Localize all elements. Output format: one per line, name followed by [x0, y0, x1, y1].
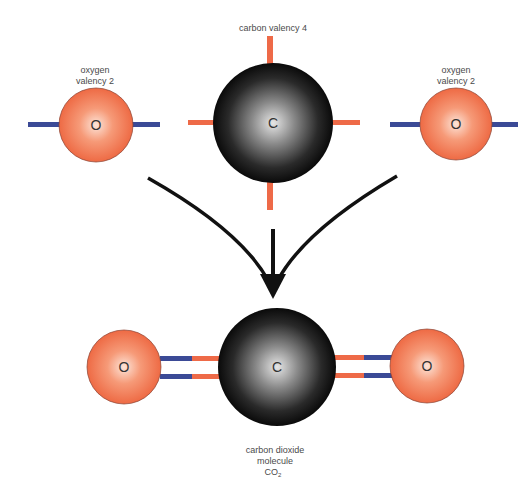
caption-line2: molecule	[257, 456, 293, 466]
caption-formula: CO2	[265, 467, 283, 478]
atom-symbol: O	[91, 117, 102, 133]
double-bond-left-bottom-carbon	[192, 374, 222, 379]
double-bond-left-top-carbon	[192, 356, 222, 361]
co2-molecule: O C O carbon dioxide molecule CO2	[87, 308, 464, 478]
bond-stub-top	[267, 36, 273, 66]
bond-stub-left	[390, 122, 420, 127]
double-bond-left-top-oxygen	[160, 356, 192, 361]
atom-symbol: O	[451, 116, 462, 132]
arrow-head-icon	[260, 274, 286, 299]
atom-symbol: C	[268, 115, 278, 131]
top-carbon: C carbon valency 4	[188, 23, 360, 210]
atom-label-line1: oxygen	[441, 65, 470, 75]
bond-stub-bottom	[267, 180, 273, 210]
atom-label-line2: valency 2	[437, 76, 475, 86]
double-bond-left-bottom-oxygen	[160, 374, 192, 379]
double-bond-right-bottom-carbon	[334, 373, 364, 378]
top-oxygen-left: O oxygen valency 2	[28, 65, 160, 162]
atom-label: carbon valency 4	[239, 23, 307, 33]
atom-symbol: O	[119, 359, 130, 375]
atom-label-line1: oxygen	[80, 65, 109, 75]
bond-stub-right	[490, 122, 518, 127]
co2-formation-diagram: O oxygen valency 2 C carbon valency 4 O …	[0, 0, 523, 502]
atom-symbol: C	[272, 359, 282, 375]
double-bond-right-top-carbon	[334, 355, 364, 360]
center-arrow-shaft	[271, 229, 275, 279]
bond-stub-right	[330, 120, 360, 125]
top-oxygen-right: O oxygen valency 2	[390, 65, 518, 160]
atom-symbol: O	[422, 358, 433, 374]
atom-label-line2: valency 2	[76, 76, 114, 86]
left-curved-arrow-icon	[148, 178, 268, 280]
right-curved-arrow-icon	[278, 176, 397, 280]
caption-line1: carbon dioxide	[246, 445, 305, 455]
bond-stub-left	[28, 122, 64, 127]
